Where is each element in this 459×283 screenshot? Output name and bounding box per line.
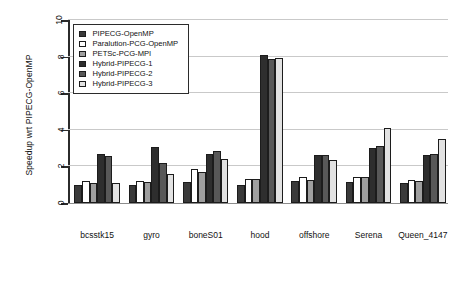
legend-label: Hybrid-PIPECG-3 — [93, 80, 153, 88]
y-tick-label: 6 — [57, 91, 66, 96]
legend-swatch-icon — [79, 41, 86, 48]
x-tick-label: hood — [251, 230, 270, 240]
bar — [221, 159, 229, 203]
x-tick-label: gyro — [143, 230, 160, 240]
bar — [430, 154, 438, 203]
legend-item[interactable]: Paralution-PCG-OpenMP — [79, 39, 178, 49]
bar-group — [237, 20, 283, 203]
legend-label: Paralution-PCG-OpenMP — [93, 40, 179, 48]
legend-label: PETSc-PCG-MPI — [93, 50, 152, 58]
legend-label: Hybrid-PIPECG-2 — [93, 70, 153, 78]
bar — [74, 185, 82, 203]
bar — [237, 185, 245, 203]
bar — [415, 181, 423, 203]
bar — [384, 128, 392, 203]
bar — [314, 155, 322, 203]
legend-label: PIPECG-OpenMP — [93, 30, 154, 38]
bar — [346, 182, 354, 203]
y-tick-label: 10 — [55, 15, 64, 24]
legend-label: Hybrid-PIPECG-1 — [93, 60, 153, 68]
bar — [376, 146, 384, 203]
legend-item[interactable]: PIPECG-OpenMP — [79, 29, 178, 39]
bar — [291, 181, 299, 203]
bar — [206, 154, 214, 203]
bar — [322, 155, 330, 203]
bar — [90, 183, 98, 203]
bar — [151, 147, 159, 203]
bar — [129, 185, 137, 203]
bar — [329, 160, 337, 203]
bar — [252, 179, 260, 203]
bar-group — [400, 20, 446, 203]
y-axis-title: Speedup wrt PIPECG-OpenMP — [24, 20, 34, 210]
bar — [307, 180, 315, 203]
bar — [97, 154, 105, 203]
x-axis-baseline — [68, 203, 448, 204]
legend-item[interactable]: Hybrid-PIPECG-1 — [79, 59, 178, 69]
bar — [136, 181, 144, 203]
bar — [408, 180, 416, 203]
bar — [144, 182, 152, 203]
bar — [275, 58, 283, 203]
x-tick-label: Serena — [355, 230, 382, 240]
bar — [245, 179, 253, 203]
legend-item[interactable]: PETSc-PCG-MPI — [79, 49, 178, 59]
y-tick-label: 0 — [57, 201, 66, 206]
bar — [191, 169, 199, 203]
bar — [198, 172, 206, 203]
bar — [105, 156, 113, 203]
bar — [423, 155, 431, 203]
bar — [353, 177, 361, 203]
bar — [400, 183, 408, 203]
legend-swatch-icon — [79, 31, 86, 38]
bar — [260, 55, 268, 203]
bar — [438, 139, 446, 203]
bar — [213, 151, 221, 203]
bar — [82, 181, 90, 203]
bar — [369, 148, 377, 203]
legend-item[interactable]: Hybrid-PIPECG-3 — [79, 79, 178, 89]
bar — [299, 177, 307, 203]
y-tick-label: 8 — [57, 54, 66, 59]
bar — [268, 59, 276, 203]
bar-group — [346, 20, 392, 203]
bar — [159, 163, 167, 203]
x-tick-label: Queen_4147 — [398, 230, 447, 240]
bar-group — [183, 20, 229, 203]
legend-swatch-icon — [79, 71, 86, 78]
bar — [112, 183, 120, 203]
legend-swatch-icon — [79, 81, 86, 88]
y-tick-label: 2 — [57, 164, 66, 169]
legend-swatch-icon — [79, 51, 86, 58]
y-tick-label: 4 — [57, 127, 66, 132]
bar-group — [291, 20, 337, 203]
bar — [361, 177, 369, 203]
x-tick-label: bcsstk15 — [80, 230, 114, 240]
legend-item[interactable]: Hybrid-PIPECG-2 — [79, 69, 178, 79]
legend: PIPECG-OpenMPParalution-PCG-OpenMPPETSc-… — [73, 24, 189, 94]
bar — [167, 174, 175, 203]
legend-swatch-icon — [79, 61, 86, 68]
bar — [183, 182, 191, 203]
x-tick-label: offshore — [299, 230, 330, 240]
bar-chart: Speedup wrt PIPECG-OpenMP 0246810 bcsstk… — [0, 0, 459, 283]
x-tick-label: boneS01 — [189, 230, 223, 240]
